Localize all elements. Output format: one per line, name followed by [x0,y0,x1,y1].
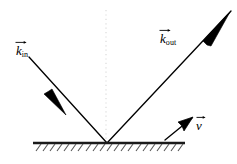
v-letter: v [196,118,202,133]
k-in-letter: k [16,43,22,58]
incoming-wavevector-arrowhead [44,89,66,115]
outgoing-wavevector-arrowhead [203,12,230,46]
k-in-subscript: in [22,50,28,59]
velocity-vector-arrowhead [178,117,193,131]
k-out-subscript: out [166,38,177,47]
velocity-label: v [196,117,202,133]
incoming-wavevector-label: kin [16,42,28,59]
outgoing-wavevector-label: kout [160,30,176,47]
scattering-diagram-figure: kin kout v [0,0,237,164]
incoming-wavevector-line [29,57,107,143]
surface-hatching [36,144,183,151]
v-symbol: v [196,119,202,132]
diagram-canvas [0,0,237,164]
k-out-symbol: k [160,32,166,45]
k-in-symbol: k [16,44,22,57]
k-out-letter: k [160,31,166,46]
